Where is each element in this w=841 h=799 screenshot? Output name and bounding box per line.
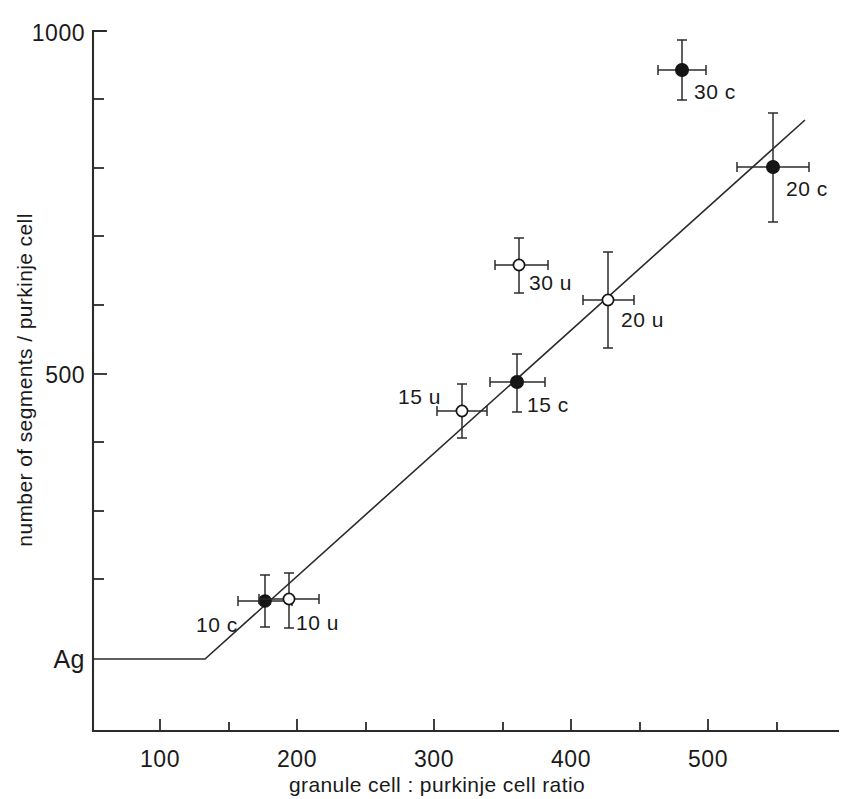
y-ticklabel-ag: Ag — [53, 645, 85, 673]
marker-open — [513, 259, 524, 270]
label-10u: 10 u — [296, 611, 339, 634]
label-15c: 15 c — [527, 393, 569, 416]
x-axis — [93, 719, 838, 731]
x-ticklabel-100: 100 — [140, 746, 180, 772]
y-ticklabel-500: 500 — [45, 362, 85, 388]
marker-open — [602, 294, 613, 305]
label-20u: 20 u — [621, 308, 664, 331]
datapoint-20c[interactable] — [737, 113, 809, 222]
y-ticklabel-1000: 1000 — [32, 20, 85, 46]
datapoint-20u[interactable] — [583, 252, 634, 348]
datapoint-15u[interactable] — [437, 384, 487, 438]
y-axis-line — [93, 31, 105, 731]
regression-line — [93, 120, 805, 659]
marker-open — [456, 405, 467, 416]
x-ticklabel-500: 500 — [688, 746, 728, 772]
marker-filled — [676, 64, 689, 77]
x-ticklabel-300: 300 — [414, 746, 454, 772]
fit-line-path — [93, 120, 805, 659]
x-axis-title: granule cell : purkinje cell ratio — [289, 773, 585, 796]
marker-filled — [767, 161, 780, 174]
x-ticklabel-400: 400 — [551, 746, 591, 772]
y-axis-title: number of segments / purkinje cell — [13, 213, 36, 546]
x-ticklabel-200: 200 — [277, 746, 317, 772]
figure-container: 10 c 10 u 15 u — [0, 0, 841, 799]
label-15u: 15 u — [398, 385, 441, 408]
marker-open — [283, 593, 294, 604]
y-axis — [93, 31, 107, 731]
label-10c: 10 c — [196, 613, 238, 636]
label-30u: 30 u — [529, 271, 572, 294]
scatter-plot: 10 c 10 u 15 u — [0, 0, 841, 799]
marker-filled — [511, 376, 524, 389]
marker-filled — [259, 595, 271, 607]
label-20c: 20 c — [786, 177, 828, 200]
label-30c: 30 c — [694, 80, 736, 103]
